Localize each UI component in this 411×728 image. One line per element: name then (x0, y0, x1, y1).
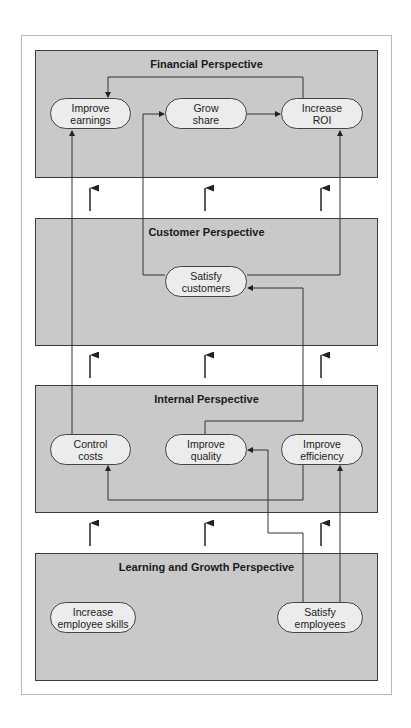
node-improve-quality: Improve quality (165, 434, 247, 465)
node-increase-roi: Increase ROI (281, 98, 363, 129)
node-increase-employee-skills: Increase employee skills (50, 602, 136, 633)
node-improve-earnings: Improve earnings (50, 98, 131, 129)
node-improve-efficiency: Improve efficiency (281, 434, 363, 465)
panel-title: Internal Perspective (36, 393, 377, 405)
node-grow-share: Grow share (165, 98, 247, 129)
node-satisfy-employees: Satisfy employees (277, 602, 363, 633)
panel-title: Financial Perspective (36, 58, 377, 70)
node-satisfy-customers: Satisfy customers (165, 266, 247, 297)
panel-title: Learning and Growth Perspective (36, 561, 377, 573)
node-control-costs: Control costs (50, 434, 131, 465)
panel-title: Customer Perspective (36, 226, 377, 238)
